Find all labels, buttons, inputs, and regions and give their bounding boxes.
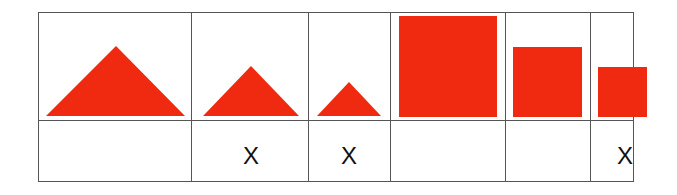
x-mark: X	[236, 141, 266, 171]
square-medium	[513, 47, 582, 117]
triangle-small	[317, 82, 381, 116]
triangle-large	[46, 46, 185, 116]
triangle-medium	[203, 66, 299, 116]
x-mark: X	[334, 141, 364, 171]
square-small	[598, 67, 647, 117]
square-large	[399, 16, 497, 117]
x-mark: X	[610, 141, 640, 171]
